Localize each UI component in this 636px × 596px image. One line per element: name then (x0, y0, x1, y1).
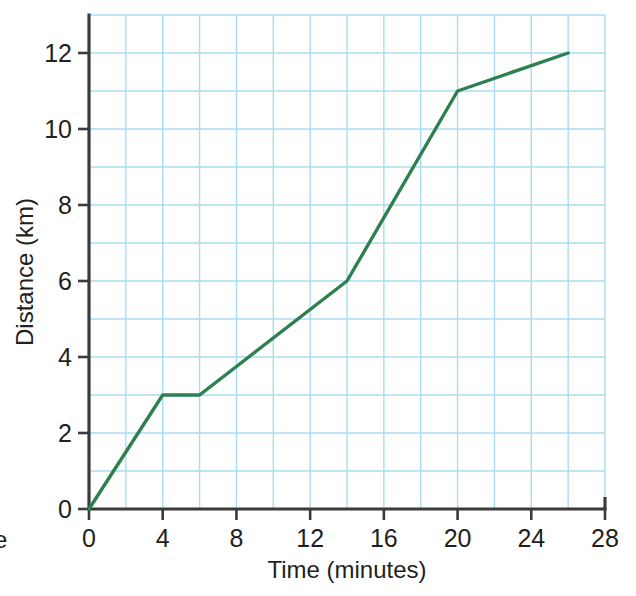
x-axis-tick-label: 16 (370, 524, 398, 552)
y-axis-ticks (78, 53, 89, 509)
y-axis-tick-label: 12 (44, 39, 72, 67)
y-axis-tick-labels: 024681012 (44, 39, 72, 523)
y-axis-tick-label: 2 (58, 419, 72, 447)
y-axis-title: Distance (km) (11, 198, 38, 346)
y-axis-tick-label: 4 (58, 343, 72, 371)
distance-time-chart: 0481216202428 024681012 Time (minutes) D… (0, 0, 636, 596)
x-axis-tick-label: 12 (296, 524, 324, 552)
x-axis-tick-label: 0 (82, 524, 96, 552)
x-axis-ticks (89, 509, 605, 520)
x-axis-tick-label: 4 (156, 524, 170, 552)
x-axis-tick-label: 20 (444, 524, 472, 552)
y-axis-tick-label: 6 (58, 267, 72, 295)
x-axis-tick-label: 28 (591, 524, 619, 552)
x-axis-tick-label: 8 (229, 524, 243, 552)
y-axis-tick-label: 10 (44, 115, 72, 143)
chart-canvas: 0481216202428 024681012 Time (minutes) D… (0, 0, 636, 596)
y-axis-tick-label: 0 (58, 495, 72, 523)
cropped-margin-letter: e (0, 528, 7, 552)
x-axis-title: Time (minutes) (267, 556, 426, 583)
x-axis-tick-labels: 0481216202428 (82, 524, 619, 552)
y-axis-tick-label: 8 (58, 191, 72, 219)
x-axis-tick-label: 24 (517, 524, 545, 552)
